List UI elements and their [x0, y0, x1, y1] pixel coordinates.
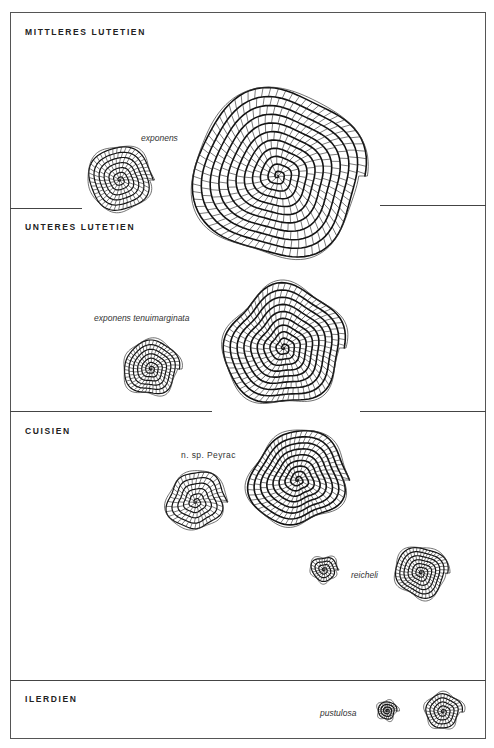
specimen-n-sp-peyrac-large [245, 430, 350, 527]
specimen-reicheli-small [310, 556, 339, 584]
specimen-n-sp-peyrac-small [165, 471, 228, 530]
fossil-drawings [0, 0, 494, 748]
specimen-reicheli-large [394, 547, 450, 601]
specimen-exponens-tenuimarginata-small [124, 338, 183, 396]
specimen-pustulosa-large [424, 691, 465, 729]
specimen-exponens-large [191, 87, 368, 259]
specimen-exponens-tenuimarginata-large [222, 280, 348, 403]
figure-plate: MITTLERES LUTETIEN UNTERES LUTETIEN CUIS… [0, 0, 494, 748]
specimen-pustulosa-small [377, 700, 400, 722]
specimen-exponens-small [88, 146, 155, 213]
